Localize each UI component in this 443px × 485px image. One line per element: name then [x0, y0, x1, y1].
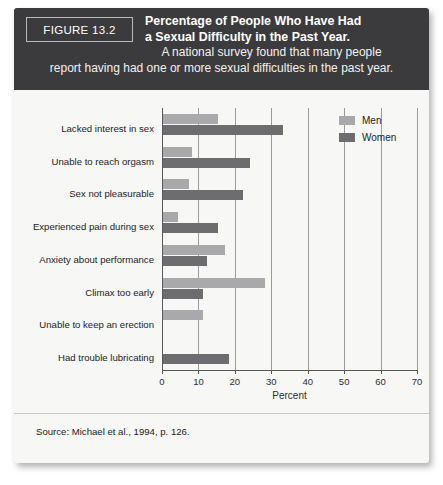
category-label: Climax too early	[14, 287, 154, 298]
x-tick-label-30: 30	[266, 376, 277, 387]
x-tick-mark-60	[381, 370, 382, 374]
figure-number-label: FIGURE 13.2	[43, 24, 115, 36]
bar-women	[163, 158, 250, 168]
x-tick-mark-10	[198, 370, 199, 374]
category-label: Lacked interest in sex	[14, 123, 154, 134]
legend-entry-men: Men	[339, 112, 396, 129]
category-label: Unable to reach orgasm	[14, 156, 154, 167]
figure-subtitle-line-2: report having had one or more sexual dif…	[22, 61, 421, 77]
legend-entry-women: Women	[339, 129, 396, 146]
gridline-20	[235, 108, 236, 370]
x-tick-mark-40	[308, 370, 309, 374]
x-tick-mark-0	[162, 370, 163, 374]
bar-women	[163, 256, 207, 266]
figure-subtitle-line-1: A national survey found that many people	[22, 45, 421, 61]
chart-legend: MenWomen	[339, 112, 396, 146]
source-divider	[14, 413, 429, 414]
gridline-30	[271, 108, 272, 370]
x-tick-mark-30	[271, 370, 272, 374]
x-tick-label-20: 20	[230, 376, 241, 387]
category-label: Had trouble lubricating	[14, 352, 154, 363]
category-label: Experienced pain during sex	[14, 221, 154, 232]
legend-label-women: Women	[362, 132, 396, 143]
legend-swatch-women	[339, 133, 355, 142]
x-tick-mark-50	[344, 370, 345, 374]
bar-men	[163, 310, 203, 320]
source-note: Source: Michael et al., 1994, p. 126.	[36, 426, 190, 437]
bar-men	[163, 212, 178, 222]
bar-women	[163, 125, 283, 135]
category-label: Unable to keep an erection	[14, 319, 154, 330]
bar-men	[163, 147, 192, 157]
bar-women	[163, 289, 203, 299]
x-tick-mark-70	[417, 370, 418, 374]
x-tick-label-50: 50	[339, 376, 350, 387]
figure-number-box: FIGURE 13.2	[26, 17, 133, 42]
bar-women	[163, 190, 243, 200]
bar-men	[163, 245, 225, 255]
legend-swatch-men	[339, 116, 355, 125]
figure-title-line-1: Percentage of People Who Have Had	[145, 14, 361, 28]
gridline-50	[344, 108, 345, 370]
x-tick-label-70: 70	[412, 376, 423, 387]
x-tick-label-10: 10	[193, 376, 204, 387]
figure-header-band: FIGURE 13.2 Percentage of People Who Hav…	[14, 8, 429, 90]
gridline-60	[381, 108, 382, 370]
chart-region: 010203040506070 Lacked interest in sexUn…	[14, 90, 429, 410]
bar-women	[163, 354, 229, 364]
gridline-40	[308, 108, 309, 370]
figure-card: FIGURE 13.2 Percentage of People Who Hav…	[14, 8, 429, 463]
figure-subtitle: A national survey found that many people…	[22, 45, 421, 76]
bar-men	[163, 278, 265, 288]
category-label: Anxiety about performance	[14, 254, 154, 265]
figure-title: Percentage of People Who Have Had a Sexu…	[145, 14, 423, 45]
bar-men	[163, 179, 189, 189]
x-axis-title: Percent	[162, 390, 417, 401]
x-tick-label-40: 40	[302, 376, 313, 387]
category-label: Sex not pleasurable	[14, 188, 154, 199]
bar-women	[163, 223, 218, 233]
x-tick-label-60: 60	[375, 376, 386, 387]
gridline-70	[417, 108, 418, 370]
figure-title-line-2: a Sexual Difficulty in the Past Year.	[145, 30, 350, 44]
x-tick-label-0: 0	[159, 376, 164, 387]
x-tick-mark-20	[235, 370, 236, 374]
gridline-10	[198, 108, 199, 370]
legend-label-men: Men	[362, 115, 381, 126]
bar-men	[163, 114, 218, 124]
